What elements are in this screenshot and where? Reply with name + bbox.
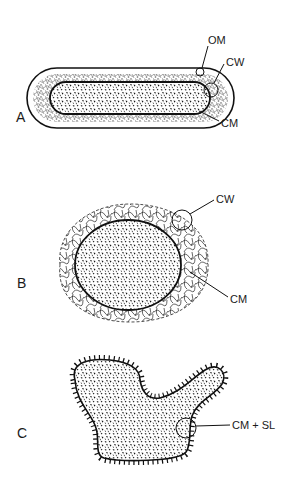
panel-b-coccus-cell (60, 200, 228, 322)
panel-label-a: A (16, 110, 25, 124)
cytoplasmic-membrane (50, 82, 210, 114)
cytoplasmic-membrane (75, 220, 181, 310)
label-om: OM (208, 34, 226, 46)
panel-c-irregular-cell (74, 360, 230, 461)
panel-a-rod-cell (27, 46, 234, 128)
cell-envelope-diagram (0, 0, 287, 478)
label-cm-b: CM (230, 293, 247, 305)
panel-label-c: C (17, 426, 27, 440)
cytoplasmic-membrane (74, 360, 224, 461)
label-cw-b: CW (216, 193, 234, 205)
label-cm-sl: CM + SL (232, 419, 275, 431)
panel-label-b: B (17, 276, 26, 290)
label-cm-a: CM (221, 117, 238, 129)
label-cw-a: CW (226, 56, 244, 68)
